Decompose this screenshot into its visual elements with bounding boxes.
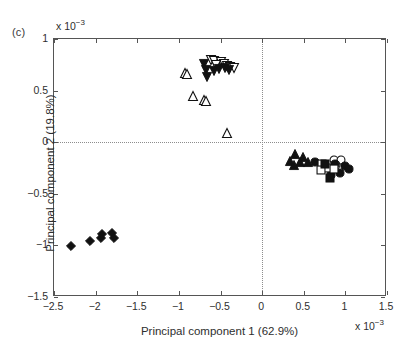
- data-point-open-square: [323, 164, 332, 173]
- x-axis-tick: [137, 39, 138, 43]
- data-point-open-down-triangle: [206, 55, 216, 65]
- x-axis-tick: [179, 291, 180, 295]
- data-point-filled-diamond: [96, 233, 106, 243]
- data-point-filled-down-triangle: [199, 59, 209, 69]
- data-point-filled-square: [325, 174, 334, 183]
- data-point-open-square: [329, 165, 338, 174]
- data-point-filled-circle: [344, 165, 353, 174]
- data-point-filled-diamond: [85, 236, 95, 246]
- data-point-open-down-triangle: [229, 63, 239, 73]
- x-axis-tick: [221, 39, 222, 43]
- x-axis-tick: [262, 291, 263, 295]
- plot-canvas: [54, 39, 385, 295]
- data-point-open-up-triangle: [222, 128, 232, 138]
- data-point-filled-down-triangle: [224, 65, 234, 75]
- data-point-filled-diamond: [107, 228, 117, 238]
- plot-area: [53, 38, 386, 296]
- data-point-filled-down-triangle: [209, 66, 219, 76]
- data-point-open-down-triangle: [219, 59, 229, 69]
- x-axis-tick: [387, 39, 388, 43]
- data-point-filled-up-triangle: [290, 149, 300, 159]
- x-axis-tick-label: 0.5: [295, 300, 310, 312]
- panel-label: (c): [12, 26, 25, 38]
- data-point-open-up-triangle: [188, 91, 198, 101]
- data-point-filled-diamond: [97, 229, 107, 239]
- x-axis-tick: [96, 39, 97, 43]
- figure-panel: (c) x 10−3 x 10−3 Principal component 1 …: [0, 0, 409, 348]
- data-point-open-down-triangle: [209, 56, 219, 66]
- y-axis-tick-label: −1: [36, 238, 48, 250]
- data-point-open-up-triangle: [201, 96, 211, 106]
- x-axis-tick-label: 1: [341, 300, 347, 312]
- x-axis-tick-label: −1.5: [126, 300, 147, 312]
- data-point-filled-down-triangle: [202, 72, 212, 82]
- y-axis-tick: [381, 297, 385, 298]
- y-axis-tick: [381, 39, 385, 40]
- x-axis-tick: [262, 39, 263, 43]
- y-axis-multiplier-prefix: x 10: [56, 20, 76, 32]
- data-point-open-circle: [332, 160, 341, 169]
- data-point-open-circle: [337, 155, 346, 164]
- x-axis-tick-label: −0.5: [209, 300, 230, 312]
- y-axis-tick: [381, 91, 385, 92]
- data-point-filled-down-triangle: [201, 65, 211, 75]
- data-point-filled-down-triangle: [214, 64, 224, 74]
- data-point-open-down-triangle: [211, 60, 221, 70]
- reference-line-horizontal: [54, 142, 385, 143]
- y-axis-tick: [54, 39, 58, 40]
- y-axis-tick-label: 0: [42, 135, 48, 147]
- data-point-filled-down-triangle: [220, 63, 230, 73]
- data-point-open-square: [317, 166, 326, 175]
- y-axis-tick-label: 1: [42, 32, 48, 44]
- x-axis-tick-label: 1.5: [379, 300, 394, 312]
- data-point-open-up-triangle: [199, 95, 209, 105]
- x-axis-tick-label: −1: [172, 300, 184, 312]
- data-point-open-square: [318, 159, 327, 168]
- y-axis-tick: [381, 245, 385, 246]
- data-point-filled-diamond: [109, 233, 119, 243]
- y-axis-multiplier-exponent: −3: [76, 18, 85, 27]
- x-axis-tick: [96, 291, 97, 295]
- data-point-filled-circle: [327, 171, 336, 180]
- reference-line-vertical: [262, 39, 263, 295]
- x-axis-tick: [387, 291, 388, 295]
- y-axis-multiplier: x 10−3: [56, 18, 85, 32]
- x-axis-title: Principal component 1 (62.9%): [53, 325, 386, 337]
- x-axis-tick-label: −2: [89, 300, 101, 312]
- x-axis-tick: [221, 291, 222, 295]
- y-axis-tick-label: −0.5: [27, 187, 48, 199]
- x-axis-tick: [345, 39, 346, 43]
- y-axis-tick: [381, 194, 385, 195]
- x-axis-tick: [179, 39, 180, 43]
- y-axis-tick-label: 0.5: [33, 84, 48, 96]
- data-point-filled-up-triangle: [289, 160, 299, 170]
- data-point-open-down-triangle: [216, 57, 226, 67]
- data-point-filled-circle: [331, 159, 340, 168]
- y-axis-tick-label: −1.5: [27, 290, 48, 302]
- y-axis-tick: [381, 142, 385, 143]
- data-point-open-up-triangle: [182, 69, 192, 79]
- data-point-filled-up-triangle: [285, 156, 295, 166]
- data-point-open-up-triangle: [180, 68, 190, 78]
- x-axis-tick: [304, 291, 305, 295]
- data-point-open-down-triangle: [222, 61, 232, 71]
- x-axis-tick: [137, 291, 138, 295]
- data-point-filled-circle: [310, 157, 319, 166]
- data-point-filled-circle: [335, 169, 344, 178]
- x-axis-tick: [304, 39, 305, 43]
- data-point-open-circle: [329, 155, 338, 164]
- data-point-filled-square: [321, 159, 330, 168]
- data-point-filled-up-triangle: [298, 152, 308, 162]
- data-point-open-down-triangle: [225, 62, 235, 72]
- x-axis-tick-label: 0: [258, 300, 264, 312]
- data-point-filled-circle: [340, 161, 349, 170]
- x-axis-tick: [345, 291, 346, 295]
- data-point-filled-up-triangle: [303, 157, 313, 167]
- data-point-filled-diamond: [66, 241, 76, 251]
- data-point-filled-up-triangle: [295, 157, 305, 167]
